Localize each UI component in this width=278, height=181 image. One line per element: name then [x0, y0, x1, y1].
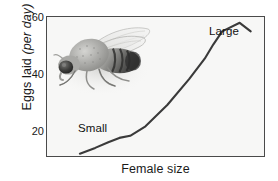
data-line-chart — [47, 17, 265, 157]
x-axis-title: Female size — [46, 162, 265, 176]
annotation-large: Large — [209, 25, 239, 37]
annotation-small: Small — [78, 122, 107, 134]
eggs-vs-size-line — [80, 23, 251, 154]
plot-area: Small Large — [46, 16, 265, 157]
figure-canvas: Eggs laid (per day) 20 40 60 — [0, 0, 278, 181]
